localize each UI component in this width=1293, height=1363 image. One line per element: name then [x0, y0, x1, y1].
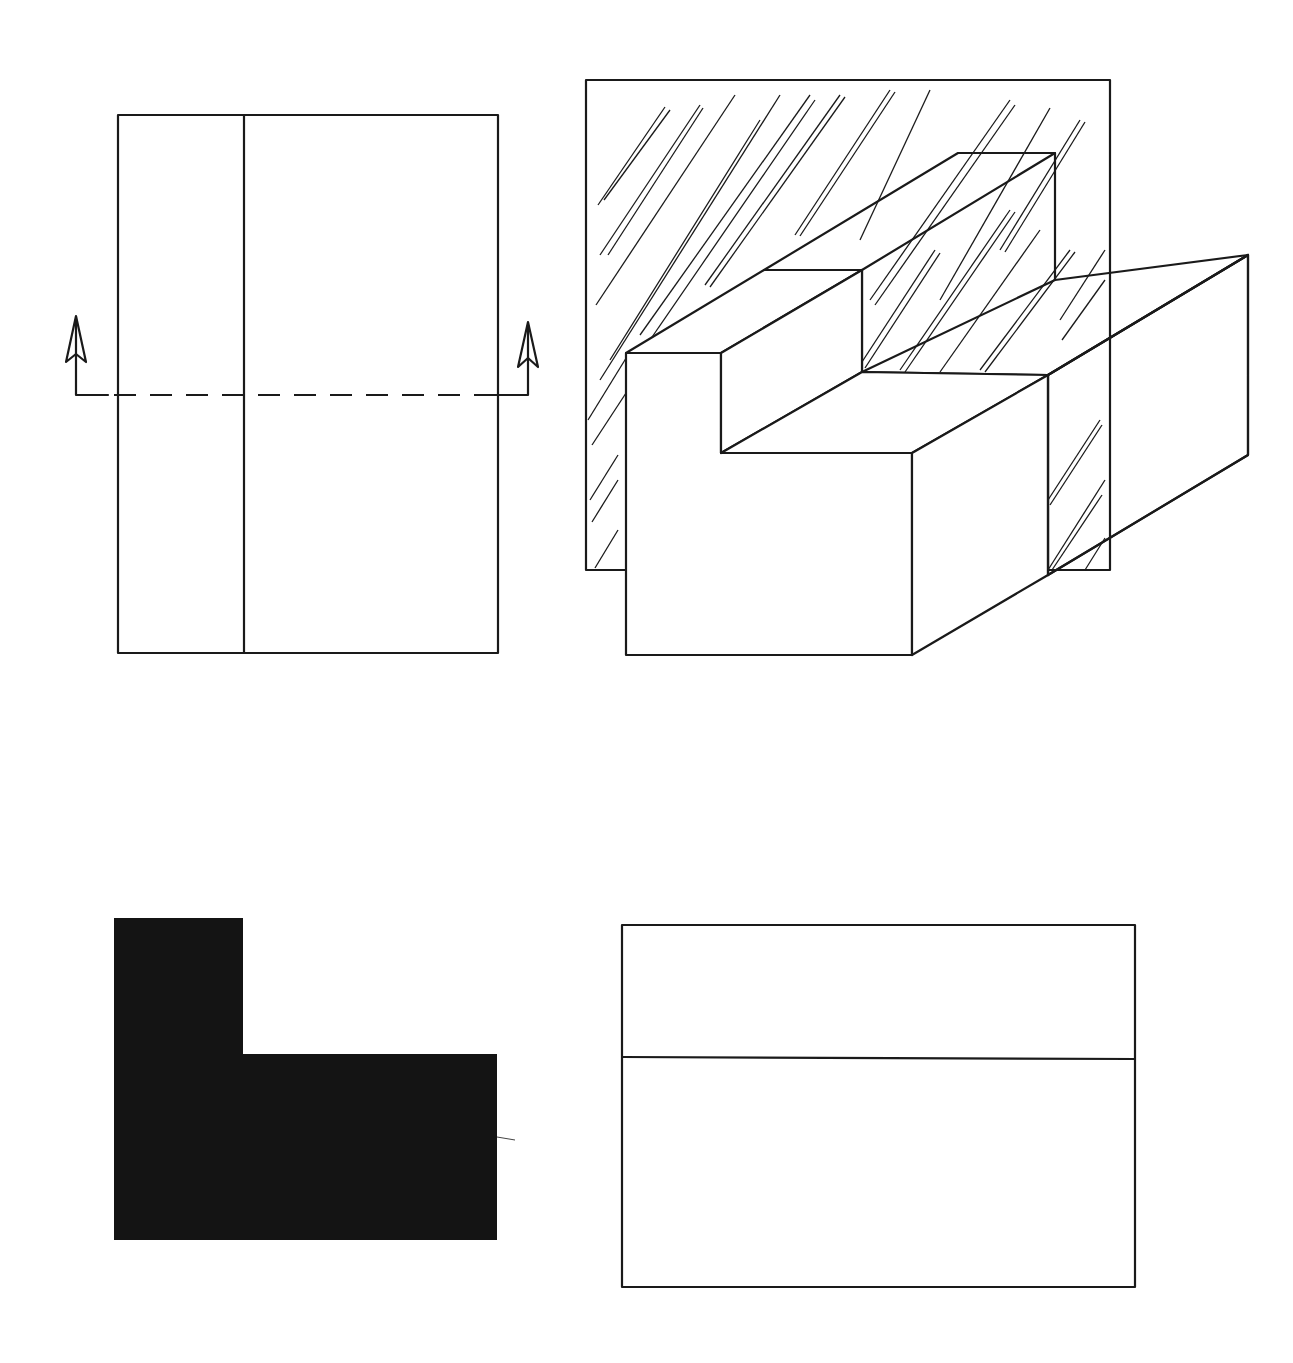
top-view — [66, 115, 538, 653]
isometric-view — [586, 80, 1248, 655]
upper-step-top — [764, 153, 1055, 270]
side-view-outline — [622, 925, 1135, 1287]
section-view-drawing — [0, 0, 1293, 1363]
top-view-outline — [118, 115, 498, 653]
section-profile — [114, 918, 497, 1240]
side-view-divider — [622, 1057, 1135, 1059]
cutting-plane-leader-right — [490, 325, 528, 395]
section-view — [114, 918, 515, 1240]
block-right-face — [1048, 255, 1248, 575]
side-view — [622, 925, 1135, 1287]
